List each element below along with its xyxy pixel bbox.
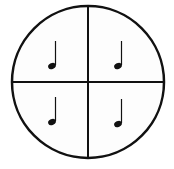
quadrant-circle-diagram bbox=[0, 0, 174, 169]
